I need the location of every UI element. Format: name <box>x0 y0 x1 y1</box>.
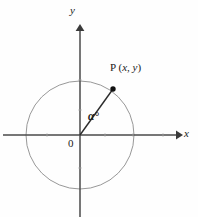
origin-label: 0 <box>68 138 74 149</box>
point-p-label: P (x, y) <box>110 62 141 73</box>
unit-circle-diagram: y x 0 P (x, y) α° <box>0 0 198 217</box>
angle-alpha-label: α° <box>88 111 99 123</box>
point-p-marker <box>110 86 115 91</box>
y-axis-label: y <box>70 5 75 16</box>
point-p-name: P ( <box>110 61 122 73</box>
x-axis-arrowhead <box>176 131 183 140</box>
diagram-canvas <box>0 0 198 217</box>
point-p-close: ) <box>137 61 141 73</box>
y-axis-arrowhead <box>76 24 85 31</box>
axis-ticks <box>47 80 163 168</box>
x-axis-label: x <box>184 128 189 139</box>
